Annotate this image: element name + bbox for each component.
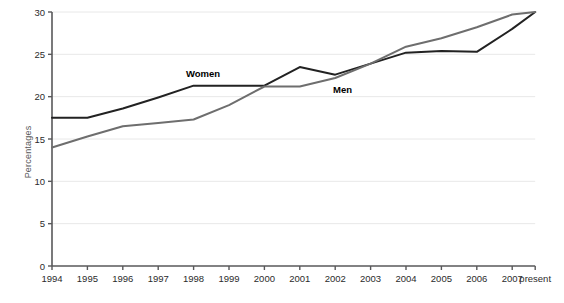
y-axis-ticks: 051015202530 bbox=[34, 7, 52, 272]
y-tick-label: 20 bbox=[34, 91, 45, 102]
line-chart: Percentages 051015202530 199419951996199… bbox=[0, 0, 564, 303]
x-tick-label: 1998 bbox=[183, 273, 204, 284]
series-line-men bbox=[52, 12, 535, 147]
y-tick-label: 15 bbox=[34, 134, 45, 145]
x-tick-label: 1999 bbox=[218, 273, 239, 284]
y-axis-title: Percentages bbox=[23, 125, 33, 178]
chart-canvas: 051015202530 199419951996199719981999200… bbox=[0, 0, 564, 303]
series-label-women: Women bbox=[186, 68, 220, 79]
x-tick-label: 1997 bbox=[148, 273, 169, 284]
x-tick-label: 1996 bbox=[112, 273, 133, 284]
x-tick-label: 2000 bbox=[254, 273, 275, 284]
y-tick-label: 5 bbox=[40, 218, 45, 229]
x-tick-label: 1994 bbox=[41, 273, 62, 284]
x-tick-label: 2003 bbox=[360, 273, 381, 284]
y-tick-label: 30 bbox=[34, 7, 45, 18]
gridlines bbox=[52, 12, 535, 224]
x-tick-label: present bbox=[519, 273, 551, 284]
x-tick-label: 2005 bbox=[431, 273, 452, 284]
x-tick-label: 2001 bbox=[289, 273, 310, 284]
x-axis-ticks: 1994199519961997199819992000200120022003… bbox=[41, 266, 551, 284]
series-lines bbox=[52, 12, 535, 147]
x-tick-label: 1995 bbox=[77, 273, 98, 284]
y-tick-label: 10 bbox=[34, 176, 45, 187]
series-line-women bbox=[52, 12, 535, 118]
series-label-men: Men bbox=[333, 84, 352, 95]
y-tick-label: 0 bbox=[40, 261, 45, 272]
x-tick-label: 2002 bbox=[325, 273, 346, 284]
y-tick-label: 25 bbox=[34, 49, 45, 60]
x-tick-label: 2006 bbox=[466, 273, 487, 284]
x-tick-label: 2004 bbox=[395, 273, 416, 284]
